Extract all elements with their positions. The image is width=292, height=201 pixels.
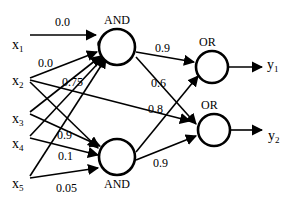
input-label-x1: x1 <box>12 38 24 52</box>
weight-label-w-andbot-ortop: 0.8 <box>148 103 163 115</box>
neuron-or-bottom[interactable] <box>198 114 230 146</box>
weight-label-w-x3-andtop: 0.75 <box>62 76 83 88</box>
output-label-y1: y1 <box>267 58 279 72</box>
edge-e-x5-andbot <box>30 168 98 178</box>
weight-label-w-andtop-ortop: 0.9 <box>155 42 170 54</box>
neuron-or-top[interactable] <box>196 51 228 83</box>
input-label-x3: x3 <box>12 112 24 126</box>
input-label-x2: x2 <box>12 74 24 88</box>
output-label-y2: y2 <box>268 129 280 143</box>
weight-label-w-x2-andtop: 0.0 <box>38 57 53 69</box>
weight-label-w-x1-andtop: 0.0 <box>55 16 70 28</box>
network-diagram-canvas: ANDANDOROR0.00.00.750.90.10.050.90.60.80… <box>0 0 292 201</box>
neuron-label-and-top: AND <box>104 14 130 26</box>
input-label-x4: x4 <box>12 137 24 151</box>
weight-label-w-andbot-orbot: 0.9 <box>153 157 168 169</box>
neuron-and-top[interactable] <box>99 29 135 65</box>
neuron-label-or-bottom: OR <box>201 99 218 111</box>
network-edges-svg <box>0 0 292 201</box>
neuron-and-bottom[interactable] <box>99 139 135 175</box>
edge-e-andbot-ortop <box>136 76 198 152</box>
weight-label-w-x3-andbot: 0.9 <box>57 129 72 141</box>
input-label-x5: x5 <box>12 177 24 191</box>
neuron-label-or-top: OR <box>199 36 216 48</box>
neuron-label-and-bottom: AND <box>104 178 130 190</box>
weight-label-w-x4-andbot: 0.1 <box>58 150 73 162</box>
weight-label-w-x5-andbot: 0.05 <box>56 182 77 194</box>
weight-label-w-andtop-orbot: 0.6 <box>151 77 166 89</box>
